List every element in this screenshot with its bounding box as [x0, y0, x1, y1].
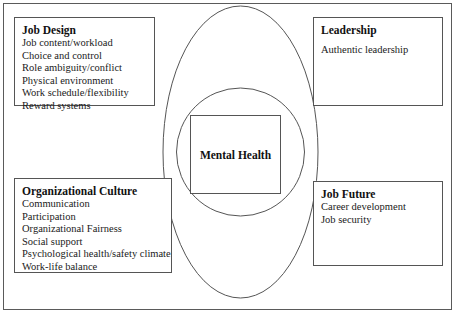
box-job-design-item-1: Choice and control	[22, 50, 148, 63]
box-organizational-culture-item-2: Organizational Fairness	[22, 223, 165, 236]
box-organizational-culture-title: Organizational Culture	[22, 184, 165, 198]
box-organizational-culture-item-0: Communication	[22, 198, 165, 211]
box-job-design-item-3: Physical environment	[22, 75, 148, 88]
box-job-design-item-2: Role ambiguity/conflict	[22, 62, 148, 75]
box-job-design-title: Job Design	[22, 23, 148, 37]
box-job-future-item-1: Job security	[321, 214, 436, 227]
box-job-design: Job Design Job content/workload Choice a…	[14, 17, 155, 106]
box-job-future-title: Job Future	[321, 187, 436, 201]
box-organizational-culture: Organizational Culture Communication Par…	[14, 178, 172, 273]
diagram-canvas: Job Design Job content/workload Choice a…	[0, 0, 458, 315]
box-job-design-item-5: Reward systems	[22, 100, 148, 113]
box-leadership-item-0: Authentic leadership	[321, 44, 436, 57]
box-leadership-spacer	[321, 37, 436, 44]
box-job-future: Job Future Career development Job securi…	[313, 181, 443, 266]
box-organizational-culture-item-1: Participation	[22, 211, 165, 224]
box-organizational-culture-item-5: Work-life balance	[22, 261, 165, 274]
box-job-future-item-0: Career development	[321, 201, 436, 214]
mental-health-label: Mental Health	[200, 149, 271, 161]
box-leadership-title: Leadership	[321, 23, 436, 37]
box-mental-health: Mental Health	[190, 115, 281, 194]
box-job-design-item-4: Work schedule/flexibility	[22, 87, 148, 100]
box-organizational-culture-item-3: Social support	[22, 236, 165, 249]
box-leadership: Leadership Authentic leadership	[313, 17, 443, 106]
box-job-design-item-0: Job content/workload	[22, 37, 148, 50]
box-organizational-culture-item-4: Psychological health/safety climate	[22, 248, 165, 261]
